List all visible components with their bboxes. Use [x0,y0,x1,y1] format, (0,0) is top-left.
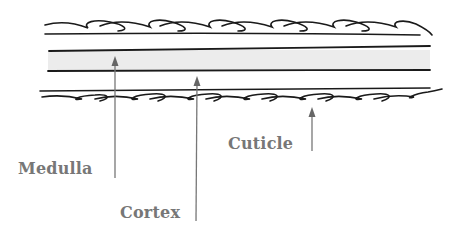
medulla-pointer [112,56,119,178]
bottom-cuticle-scales [40,88,442,101]
cuticle-pointer [309,107,316,151]
medulla-label: Medulla [18,161,93,177]
arrow-up-icon [309,107,316,117]
top-cuticle-scales [45,20,432,35]
hair-shaft-drawing [0,0,465,241]
arrow-up-icon [194,76,201,86]
cortex-label: Cortex [120,205,180,221]
medulla-band [48,50,430,71]
cortex-pointer [194,76,201,221]
cuticle-label: Cuticle [228,136,293,152]
hair-structure-diagram: Medulla Cortex Cuticle [0,0,465,241]
